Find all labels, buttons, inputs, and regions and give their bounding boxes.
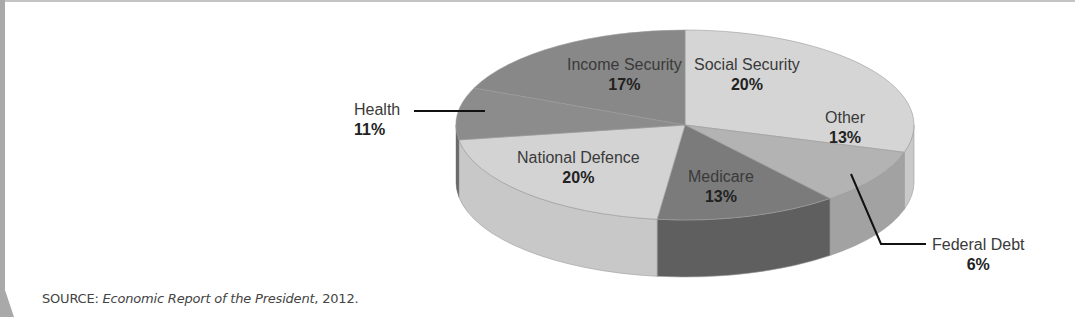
label-name: National Defence [517,148,640,168]
label-pct: 20% [694,75,800,95]
label-social-security: Social Security 20% [694,55,800,95]
source-note: SOURCE: Economic Report of the President… [42,291,358,306]
label-federal-debt: Federal Debt 6% [932,235,1025,275]
source-prefix: SOURCE: [42,291,103,306]
label-name: Medicare [688,167,754,187]
label-health: Health 11% [354,100,400,140]
label-income-security: Income Security 17% [567,55,682,95]
label-pct: 20% [517,168,640,188]
source-title: Economic Report of the President [103,291,315,306]
label-name: Other [825,108,865,128]
label-name: Income Security [567,55,682,75]
label-pct: 13% [825,128,865,148]
label-pct: 13% [688,187,754,207]
label-pct: 17% [567,75,682,95]
label-name: Federal Debt [932,235,1025,255]
label-national-defence: National Defence 20% [517,148,640,188]
label-name: Health [354,100,400,120]
label-pct: 11% [354,120,400,140]
source-suffix: , 2012. [314,291,358,306]
label-medicare: Medicare 13% [688,167,754,207]
label-other: Other 13% [825,108,865,148]
label-pct: 6% [932,255,1025,275]
label-name: Social Security [694,55,800,75]
